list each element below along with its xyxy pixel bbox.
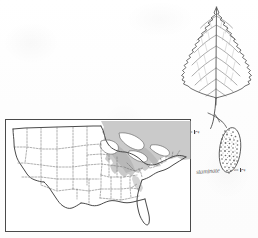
catkin-scale-label: 1 2 [234, 162, 246, 178]
page-title: Botanical species plate [0, 21, 1, 22]
leaf-illustration [172, 2, 258, 130]
us-range-map [5, 119, 191, 232]
leaf-scale-denominator: 2 [195, 130, 201, 134]
botanical-plate: Botanical species plate [0, 0, 258, 238]
catkin-scale-denominator: 2 [241, 168, 247, 172]
